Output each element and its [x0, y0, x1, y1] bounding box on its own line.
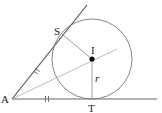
label-T: T: [88, 102, 95, 113]
label-S: S: [54, 25, 60, 37]
label-I: I: [91, 44, 95, 56]
angle-bisector: [12, 49, 117, 99]
tick-marks-AS: [33, 69, 40, 75]
center-dot: [89, 56, 94, 61]
label-A: A: [1, 93, 9, 105]
radius-IS: [62, 34, 92, 59]
incircle-diagram: A S I T r: [0, 0, 162, 113]
label-r: r: [95, 72, 100, 84]
tangent-line-AS: [12, 5, 87, 99]
